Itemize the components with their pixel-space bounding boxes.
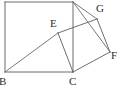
vertex-label-c: C	[69, 76, 76, 87]
vertex-label-e: E	[50, 18, 57, 29]
vertex-label-b: B	[0, 76, 6, 87]
diagonal-b-to-e	[5, 33, 58, 72]
segment-e-to-c	[58, 33, 73, 72]
geometry-figure-canvas: B C E G F	[0, 0, 128, 94]
segment-a-to-g	[73, 2, 97, 19]
geometry-figure-svg	[0, 0, 128, 94]
vertex-label-f: F	[111, 50, 117, 61]
segment-g-to-f	[97, 19, 110, 52]
segment-c-to-f	[73, 52, 110, 72]
segment-a-to-f	[73, 2, 110, 52]
vertex-label-g: G	[96, 3, 104, 14]
figure-strokes	[5, 2, 110, 72]
